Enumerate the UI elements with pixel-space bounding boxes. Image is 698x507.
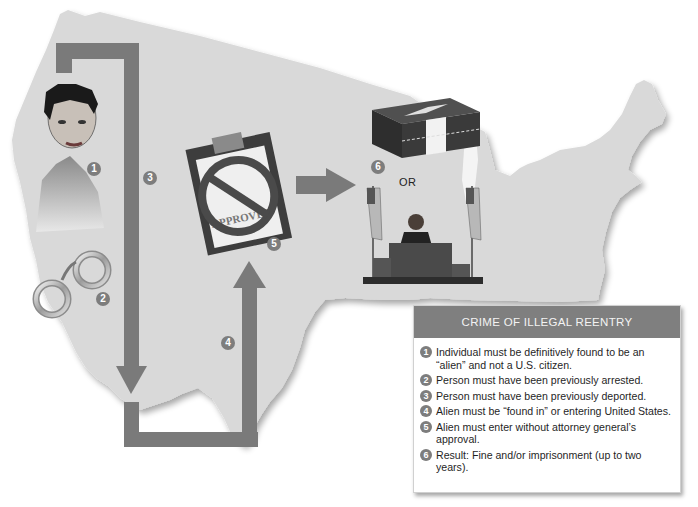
legend-text: Person must have been previously arreste… <box>436 374 672 387</box>
legend-title: CRIME OF ILLEGAL REENTRY <box>414 306 680 338</box>
legend-number-badge: 1 <box>420 346 432 358</box>
or-label: OR <box>399 176 417 188</box>
illegal-reentry-diagram: APPROVED 1 2 <box>0 0 698 507</box>
legend-item: 3 Person must have been previously depor… <box>420 390 672 403</box>
legend-item: 5 Alien must enter without attorney gene… <box>420 421 672 446</box>
marker-2-handcuffs: 2 <box>96 292 110 306</box>
marker-6-result: 6 <box>371 160 385 174</box>
legend-number-badge: 4 <box>420 405 432 417</box>
legend-box: CRIME OF ILLEGAL REENTRY 1 Individual mu… <box>413 305 681 493</box>
legend-text: Alien must enter without attorney genera… <box>436 421 672 446</box>
marker-3-deported: 3 <box>143 171 157 185</box>
legend-number-badge: 2 <box>420 374 432 386</box>
legend-item: 1 Individual must be definitively found … <box>420 346 672 371</box>
legend-text: Result: Fine and/or imprisonment (up to … <box>436 449 672 474</box>
legend-text: Alien must be “found in” or entering Uni… <box>436 405 672 418</box>
legend-item: 2 Person must have been previously arres… <box>420 374 672 387</box>
legend-item: 4 Alien must be “found in” or entering U… <box>420 405 672 418</box>
legend-text: Person must have been previously deporte… <box>436 390 672 403</box>
marker-5-no-approval: 5 <box>267 237 281 251</box>
marker-4-found-in: 4 <box>221 336 235 350</box>
legend-number-badge: 3 <box>420 390 432 402</box>
legend-number-badge: 6 <box>420 449 432 461</box>
legend-number-badge: 5 <box>420 421 432 433</box>
legend-text: Individual must be definitively found to… <box>436 346 672 371</box>
marker-1-person: 1 <box>87 162 101 176</box>
legend-item: 6 Result: Fine and/or imprisonment (up t… <box>420 449 672 474</box>
legend-list: 1 Individual must be definitively found … <box>414 338 680 474</box>
